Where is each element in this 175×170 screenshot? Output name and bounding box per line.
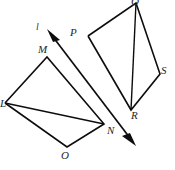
quadrilateral-pqsr-outline — [88, 3, 160, 110]
vertex-label-q: Q — [131, 0, 139, 7]
vertex-label-o: O — [61, 150, 69, 161]
quadrilateral-pqsr-diagonal — [131, 3, 136, 110]
vertex-label-p: P — [70, 27, 77, 38]
arrow-head-top-icon — [47, 29, 60, 42]
vertex-label-m: M — [38, 44, 47, 55]
geometry-diagram: l L M N O P Q R S — [0, 0, 175, 170]
vertex-label-l: L — [0, 98, 6, 109]
vertex-label-r: R — [131, 110, 138, 121]
vertex-label-s: S — [161, 65, 167, 76]
line-label-l: l — [36, 22, 39, 32]
vertex-label-n: N — [107, 125, 114, 136]
arrow-head-bottom-icon — [122, 133, 136, 146]
quadrilateral-lmno-outline — [5, 57, 104, 147]
diagram-canvas — [0, 0, 175, 170]
arrow-line-l — [50, 33, 133, 142]
